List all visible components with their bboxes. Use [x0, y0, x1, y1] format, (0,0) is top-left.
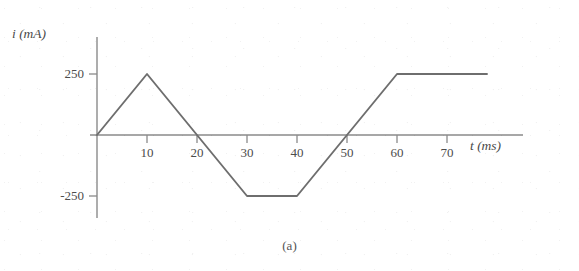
x-tick-label-20: 20: [191, 145, 204, 161]
y-tick-label-minus-250: -250: [24, 188, 84, 204]
x-tick-label-10: 10: [141, 145, 154, 161]
y-tick-label-250: 250: [34, 66, 84, 82]
x-tick-label-60: 60: [391, 145, 404, 161]
x-axis-label: t (ms): [470, 138, 501, 154]
x-tick-label-50: 50: [341, 145, 354, 161]
waveform-plot-svg: [0, 0, 579, 271]
x-tick-label-70: 70: [441, 145, 454, 161]
x-tick-label-30: 30: [241, 145, 254, 161]
y-axis-label: i (mA): [12, 26, 46, 42]
current-waveform-figure: i (mA) t (ms) 10 20 30 40 50 60 70 250 -…: [0, 0, 579, 271]
x-tick-label-40: 40: [291, 145, 304, 161]
x-axis-ticks: [147, 135, 447, 143]
figure-caption: (a): [0, 238, 579, 254]
